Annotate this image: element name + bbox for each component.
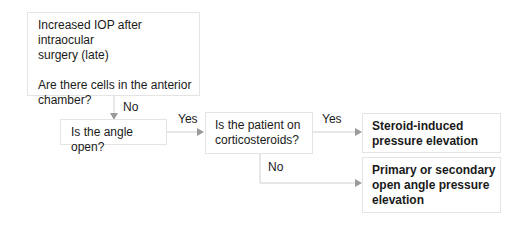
node-text-line: Increased IOP after intraocular [38,18,199,48]
node-increased-iop: Increased IOP after intraocular surgery … [27,12,200,96]
node-angle-open: Is the angle open? [60,119,167,145]
node-text-line: pressure elevation [372,134,500,149]
node-text-line: Is the patient on [215,118,312,133]
edge-label-no-2: No [268,160,283,174]
node-text-line: corticosteroids? [215,133,312,148]
node-question-line: chamber? [38,93,199,108]
node-text-line: Steroid-induced [372,119,500,134]
node-text: Is the angle open? [71,125,166,155]
edge-label-yes-2: Yes [322,112,342,126]
node-text-line: surgery (late) [38,48,199,63]
node-open-angle-elevation: Primary or secondary open angle pressure… [362,157,501,213]
node-text-line: elevation [372,193,500,208]
node-text-line: open angle pressure [372,178,500,193]
node-steroid-induced: Steroid-induced pressure elevation [362,113,501,153]
edge-label-no-1: No [123,100,138,114]
node-corticosteroids: Is the patient on corticosteroids? [205,112,313,154]
node-question-line: Are there cells in the anterior [38,78,199,93]
node-text-line: Primary or secondary [372,163,500,178]
edge-label-yes-1: Yes [178,112,198,126]
